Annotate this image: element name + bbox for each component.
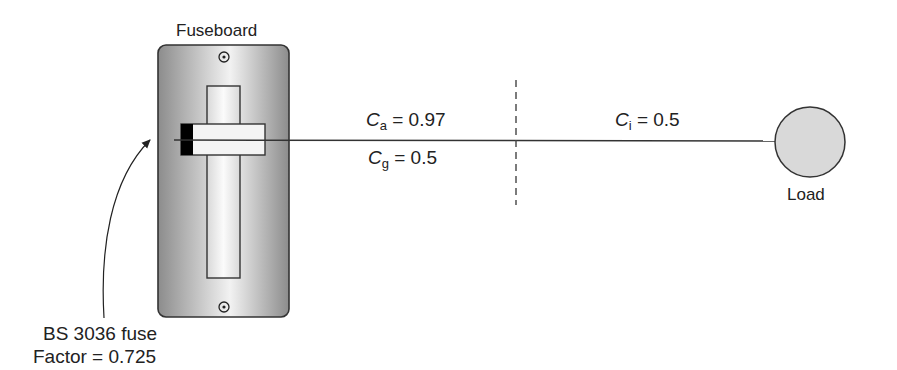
ci-symbol: C — [615, 109, 629, 130]
ci-label: Ci = 0.5 — [615, 110, 680, 136]
load-label: Load — [787, 185, 825, 205]
cg-symbol: C — [368, 147, 382, 168]
ca-value: = 0.97 — [387, 109, 446, 130]
cable-line — [174, 140, 776, 141]
cg-value: = 0.5 — [389, 147, 437, 168]
fuseboard-title: Fuseboard — [176, 21, 257, 41]
ca-symbol: C — [366, 109, 380, 130]
fuse-pointer-arrow — [103, 140, 150, 318]
fuse-holder-vertical — [207, 86, 240, 278]
fuse-factor-label: Factor = 0.725 — [33, 346, 156, 368]
diagram-canvas — [0, 0, 897, 370]
fuse-type-label: BS 3036 fuse — [43, 323, 157, 345]
ca-label: Ca = 0.97 — [366, 110, 446, 136]
fuseboard — [158, 45, 289, 317]
ca-subscript: a — [380, 118, 387, 133]
cg-label: Cg = 0.5 — [368, 148, 437, 174]
cg-subscript: g — [382, 156, 389, 171]
load-icon — [775, 107, 845, 177]
ci-value: = 0.5 — [632, 109, 680, 130]
